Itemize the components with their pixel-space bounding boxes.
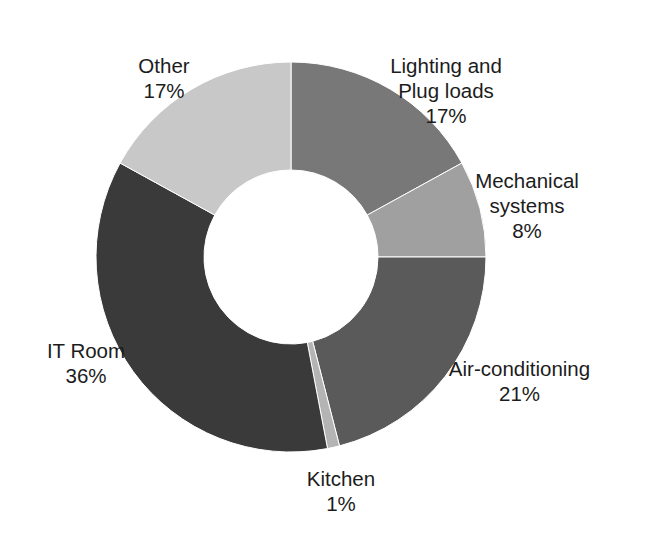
donut-chart-figure: Lighting and Plug loads 17% Mechanical s… <box>0 0 656 539</box>
slice-label-other: Other 17% <box>110 53 218 103</box>
slice-label-name-line2: Plug loads <box>371 78 521 103</box>
donut-slice-air-conditioning <box>313 257 486 446</box>
slice-label-air-conditioning: Air-conditioning 21% <box>432 356 607 406</box>
donut-chart-svg <box>0 0 656 539</box>
slice-label-value: 1% <box>281 491 401 516</box>
slice-label-value: 36% <box>22 363 150 388</box>
slice-label-value: 8% <box>452 218 602 243</box>
slice-label-name-line1: Other <box>110 53 218 78</box>
slice-label-value: 21% <box>432 381 607 406</box>
slice-label-name-line1: Air-conditioning <box>432 356 607 381</box>
slice-label-name-line2: systems <box>452 193 602 218</box>
slice-label-lighting-and-plug-loads: Lighting and Plug loads 17% <box>371 53 521 128</box>
slice-label-name-line1: Kitchen <box>281 466 401 491</box>
slice-label-mechanical-systems: Mechanical systems 8% <box>452 168 602 243</box>
slice-label-it-room: IT Room 36% <box>22 338 150 388</box>
slice-label-name-line1: Mechanical <box>452 168 602 193</box>
slice-label-kitchen: Kitchen 1% <box>281 466 401 516</box>
slice-label-value: 17% <box>110 78 218 103</box>
slice-label-value: 17% <box>371 103 521 128</box>
slice-label-name-line1: IT Room <box>22 338 150 363</box>
slice-label-name-line1: Lighting and <box>371 53 521 78</box>
